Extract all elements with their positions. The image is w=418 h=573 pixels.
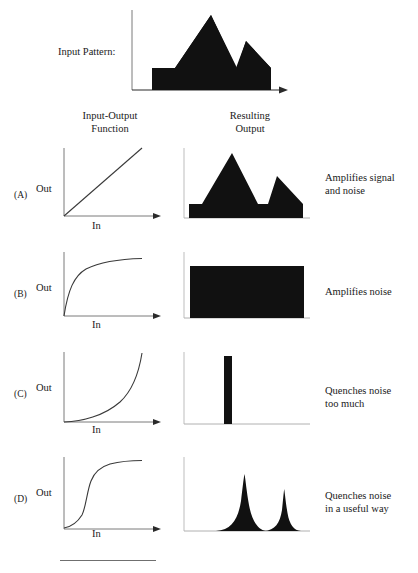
column-header-function: Input-Output Function — [50, 110, 170, 135]
row-b-saturating-curve — [64, 259, 142, 317]
column-header-output-line2: Output — [235, 123, 264, 134]
row-d-output-peak-2 — [264, 489, 301, 531]
column-header-function-line1: Input-Output — [83, 110, 138, 121]
row-d-y-label: Out — [36, 487, 52, 498]
input-pattern-shape-fill — [152, 15, 271, 89]
row-d-output-peak-1 — [216, 474, 266, 531]
row-c-function-plot — [60, 352, 170, 428]
row-a-fn-x-arrow-icon — [153, 213, 161, 219]
row-tag-b: (B) — [14, 289, 27, 299]
row-c-output-shape — [224, 356, 232, 424]
column-header-output: Resulting Output — [185, 110, 315, 135]
input-x-arrow-icon — [279, 87, 288, 94]
row-tag-a: (A) — [14, 190, 27, 200]
footer-rule — [60, 560, 156, 561]
row-b-function-plot — [60, 252, 170, 322]
input-pattern-label: Input Pattern: — [58, 46, 115, 58]
row-c-description: Quenches noise too much — [325, 384, 418, 410]
row-c-output-plot — [180, 352, 315, 428]
row-b-output-shape — [190, 266, 304, 318]
row-b-description: Amplifies noise — [325, 285, 418, 298]
row-d-fn-x-arrow-icon — [153, 526, 161, 532]
row-a-output-shape — [189, 153, 303, 218]
input-pattern-plot — [126, 8, 290, 96]
row-a-y-label: Out — [36, 183, 52, 194]
row-d-description: Quenches noise in a useful way — [325, 489, 418, 515]
row-b-fn-x-arrow-icon — [153, 313, 161, 319]
row-a-description: Amplifies signal and noise — [325, 171, 418, 197]
column-header-output-line1: Resulting — [230, 110, 270, 121]
row-b-y-label: Out — [36, 282, 52, 293]
row-a-output-plot — [180, 148, 315, 222]
row-a-function-plot — [60, 148, 170, 222]
figure-canvas: Input Pattern: Input-Output Function Res… — [0, 0, 418, 573]
row-c-fn-x-arrow-icon — [153, 419, 161, 425]
row-a-linear-curve — [64, 148, 142, 216]
row-d-output-plot — [180, 457, 315, 535]
column-header-function-line2: Function — [91, 123, 128, 134]
row-c-y-label: Out — [36, 382, 52, 393]
row-d-sigmoid-curve — [64, 461, 142, 529]
row-tag-d: (D) — [14, 494, 27, 504]
row-b-output-plot — [180, 252, 315, 322]
row-d-function-plot — [60, 457, 170, 535]
row-tag-c: (C) — [14, 389, 27, 399]
row-c-exponential-curve — [64, 353, 142, 422]
